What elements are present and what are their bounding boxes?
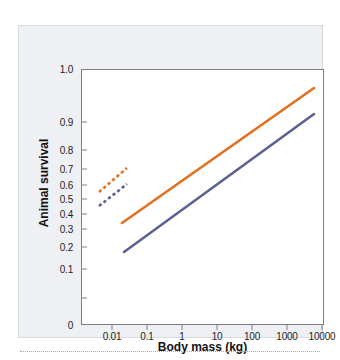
- x-axis-ticks: [112, 325, 322, 330]
- y-axis-ticks: [81, 122, 87, 298]
- series-upper-solid: [122, 88, 314, 223]
- ytick-label: 0: [43, 320, 73, 331]
- y-axis-title: Animal survival: [37, 113, 51, 253]
- figure-card: 1.0 0.9 0.8 0.7 0.6 0.5 0.4 0.3 0.2 0.1 …: [18, 25, 323, 338]
- figure-root: 1.0 0.9 0.8 0.7 0.6 0.5 0.4 0.3 0.2 0.1 …: [0, 0, 340, 360]
- footer-divider: [20, 351, 320, 353]
- series-lower-solid: [124, 114, 314, 252]
- ytick-label: 0.1: [43, 264, 73, 275]
- ytick-label: 1.0: [43, 64, 73, 75]
